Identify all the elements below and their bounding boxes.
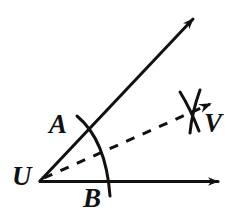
point-label-b: B — [83, 185, 101, 212]
figure-canvas — [0, 0, 230, 221]
ray-upper-slanted — [40, 19, 193, 181]
point-label-a: A — [49, 111, 67, 138]
ray-bisector-dashed — [44, 104, 210, 178]
point-label-v: V — [204, 110, 222, 137]
angle-bisector-figure: U A B V — [0, 0, 230, 221]
vertex-label-u: U — [12, 163, 32, 190]
